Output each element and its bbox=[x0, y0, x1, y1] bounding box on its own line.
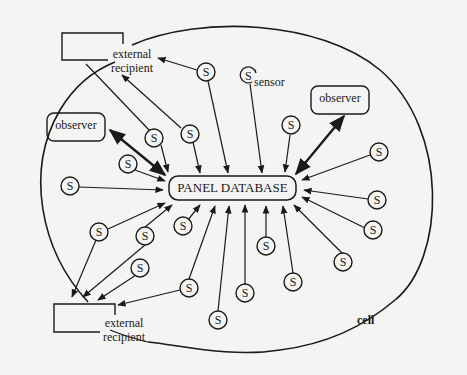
svg-text:S: S bbox=[370, 223, 377, 237]
svg-text:S: S bbox=[96, 225, 103, 239]
external-recipient-line1: external bbox=[98, 316, 150, 330]
panel-database-label: PANEL DATABASE bbox=[169, 180, 296, 196]
svg-text:S: S bbox=[374, 193, 381, 207]
svg-text:S: S bbox=[187, 127, 194, 141]
cell-label: cell bbox=[357, 313, 374, 328]
svg-text:S: S bbox=[137, 261, 144, 275]
svg-text:S: S bbox=[180, 219, 187, 233]
svg-text:S: S bbox=[203, 65, 210, 79]
svg-text:S: S bbox=[340, 255, 347, 269]
svg-text:S: S bbox=[186, 281, 193, 295]
svg-text:S: S bbox=[67, 179, 74, 193]
svg-text:S: S bbox=[263, 239, 270, 253]
external-recipient-line2: recipient bbox=[106, 61, 158, 75]
svg-text:S: S bbox=[215, 313, 222, 327]
external-recipient-line1: external bbox=[106, 47, 158, 61]
svg-text:S: S bbox=[288, 118, 295, 132]
svg-text:S: S bbox=[242, 286, 249, 300]
external-recipient-line2: recipient bbox=[98, 330, 150, 344]
svg-text:S: S bbox=[290, 275, 297, 289]
svg-text:S: S bbox=[151, 131, 158, 145]
svg-text:S: S bbox=[125, 157, 132, 171]
sensor-label: sensor bbox=[254, 75, 285, 90]
svg-text:S: S bbox=[376, 145, 383, 159]
external-recipient-label-bottom: external recipient bbox=[98, 316, 150, 344]
svg-text:S: S bbox=[142, 229, 149, 243]
observer-label-right: observer bbox=[311, 91, 369, 106]
sensor-symbol: S bbox=[245, 69, 252, 84]
observer-label-left: observer bbox=[47, 118, 105, 133]
external-recipient-label-top: external recipient bbox=[106, 47, 158, 75]
